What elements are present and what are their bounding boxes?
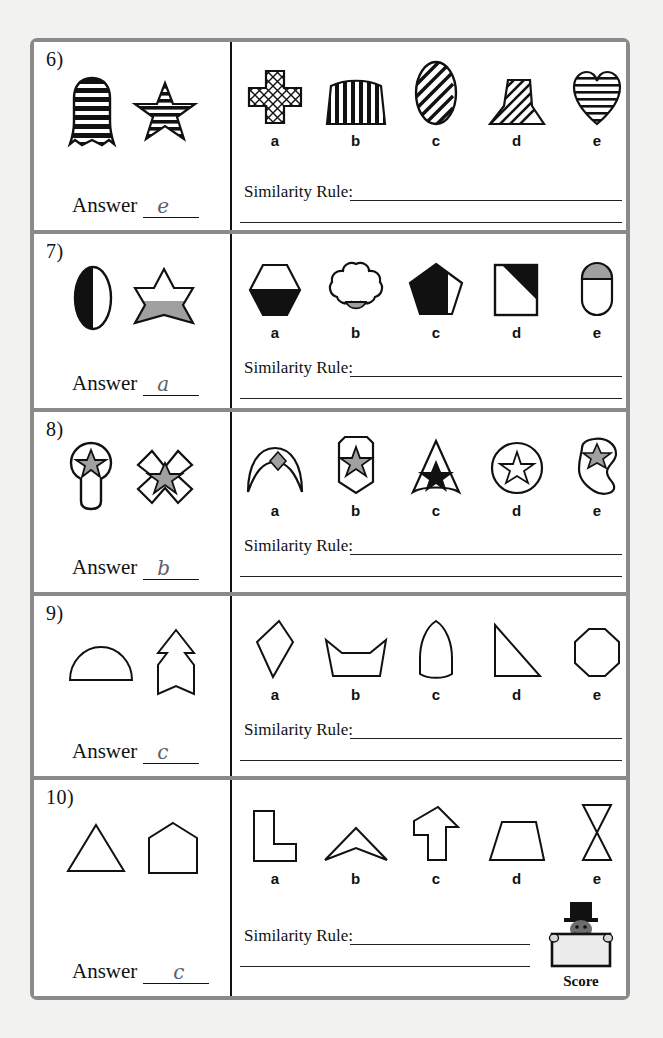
answer-label: Answer: [72, 193, 137, 218]
option-8-e[interactable]: e: [562, 430, 632, 519]
option-8-d[interactable]: d: [482, 430, 552, 519]
answer-blank[interactable]: a: [143, 373, 199, 396]
question-6-options-cell: a: [232, 42, 626, 230]
answer-handwriting-7: a: [157, 374, 169, 394]
option-6-e[interactable]: e: [562, 60, 632, 149]
option-shape-crescent-arch-with-gray-diamond: [245, 430, 305, 496]
similarity-rule-line-1[interactable]: [350, 376, 622, 377]
option-7-b[interactable]: b: [321, 252, 391, 341]
similarity-rule-label-9: Similarity Rule:: [244, 720, 353, 740]
option-shape-square-upper-right-black-triangle: [492, 252, 542, 318]
option-9-b[interactable]: b: [321, 614, 391, 703]
similarity-rule-label-6: Similarity Rule:: [244, 182, 353, 202]
question-7-stimuli: [34, 254, 232, 342]
stimulus-horizontally-striped-dome-pillar-shape: [69, 76, 115, 148]
similarity-rule-line-2[interactable]: [240, 760, 622, 761]
option-10-e[interactable]: e: [562, 798, 632, 887]
question-7-options-cell: a b: [232, 234, 626, 408]
answer-handwriting-8: b: [157, 558, 170, 578]
question-row-8: 8) Answer b: [34, 412, 626, 596]
question-8-stimuli: [34, 432, 232, 520]
option-letter: b: [351, 324, 360, 341]
option-shape-l-shape-outline: [250, 798, 300, 864]
option-letter: e: [593, 502, 601, 519]
similarity-rule-label-7: Similarity Rule:: [244, 358, 353, 378]
option-letter: a: [271, 132, 279, 149]
option-letter: e: [593, 324, 601, 341]
question-8-answer: Answer b: [72, 555, 199, 580]
option-shape-circle-with-white-star: [489, 430, 545, 496]
option-9-d[interactable]: d: [482, 614, 552, 703]
question-7-options: a b: [240, 252, 632, 341]
similarity-rule-line-2[interactable]: [240, 398, 622, 399]
option-letter: c: [432, 132, 440, 149]
similarity-rule-line-1[interactable]: [350, 554, 622, 555]
option-letter: d: [512, 870, 521, 887]
option-shape-heart-with-horizontal-stripes: [572, 60, 622, 126]
answer-label: Answer: [72, 739, 137, 764]
option-6-b[interactable]: b: [321, 60, 391, 149]
option-6-a[interactable]: a: [240, 60, 310, 149]
similarity-rule-line-1[interactable]: [350, 738, 622, 739]
option-10-d[interactable]: d: [482, 798, 552, 887]
question-10-stimulus-cell: 10) Answer c: [34, 780, 232, 996]
similarity-rule-line-2[interactable]: [240, 576, 622, 577]
option-7-d[interactable]: d: [482, 252, 552, 341]
option-9-a[interactable]: a: [240, 614, 310, 703]
similarity-rule-line-2[interactable]: [240, 222, 622, 223]
option-6-c[interactable]: c: [401, 60, 471, 149]
option-shape-open-bowl-trapezoid-outline: [322, 614, 390, 680]
option-10-b[interactable]: b: [321, 798, 391, 887]
answer-blank[interactable]: b: [143, 557, 199, 580]
option-shape-ellipse-with-diagonal-stripes: [413, 60, 459, 126]
option-letter: a: [271, 686, 279, 703]
option-shape-cloud-shape-bottom-gray: [328, 252, 384, 318]
similarity-rule-line-1[interactable]: [350, 200, 622, 201]
option-shape-pentagon-mostly-black: [408, 252, 464, 318]
option-shape-chevron-arrowhead-outline: [321, 798, 391, 864]
question-6-options: a: [240, 60, 632, 149]
answer-handwriting-9: c: [157, 742, 168, 762]
option-8-b[interactable]: b: [321, 430, 391, 519]
similarity-rule-label-8: Similarity Rule:: [244, 536, 353, 556]
option-shape-right-triangle-outline: [491, 614, 543, 680]
question-row-9: 9) Answer c: [34, 596, 626, 780]
option-letter: c: [432, 502, 440, 519]
option-10-c[interactable]: c: [401, 798, 471, 887]
question-row-6: 6): [34, 42, 626, 234]
option-shape-cross-with-crosshatch-fill: [246, 60, 304, 126]
question-6-stimulus-cell: 6): [34, 42, 232, 230]
answer-label: Answer: [72, 959, 137, 984]
option-6-d[interactable]: d: [482, 60, 552, 149]
option-7-e[interactable]: e: [562, 252, 632, 341]
question-8-options-cell: a b: [232, 412, 626, 592]
option-8-c[interactable]: c: [401, 430, 471, 519]
option-7-a[interactable]: a: [240, 252, 310, 341]
answer-blank[interactable]: e: [143, 195, 199, 218]
option-letter: a: [271, 502, 279, 519]
option-shape-blob-shape-with-gray-star: [574, 430, 620, 496]
option-10-a[interactable]: a: [240, 798, 310, 887]
question-row-10: 10) Answer c: [34, 780, 626, 996]
similarity-rule-line-1[interactable]: [350, 944, 530, 945]
question-7-stimulus-cell: 7) Answer: [34, 234, 232, 408]
option-7-c[interactable]: c: [401, 252, 471, 341]
stimulus-ellipse-half-black-left: [71, 265, 115, 331]
option-letter: a: [271, 324, 279, 341]
question-10-stimuli: [34, 804, 232, 892]
option-9-e[interactable]: e: [562, 614, 632, 703]
answer-blank[interactable]: c: [143, 741, 199, 764]
option-shape-kite-diamond-outline: [253, 614, 297, 680]
option-9-c[interactable]: c: [401, 614, 471, 703]
question-9-stimulus-cell: 9) Answer c: [34, 596, 232, 776]
option-letter: d: [512, 502, 521, 519]
option-shape-triangle-with-black-star: [409, 430, 463, 496]
option-8-a[interactable]: a: [240, 430, 310, 519]
man-with-top-hat-holding-sign-icon: [542, 900, 620, 972]
option-letter: b: [351, 686, 360, 703]
stimulus-house-pentagon-outline: [145, 820, 201, 876]
answer-blank[interactable]: c: [143, 961, 209, 984]
stimulus-x-cross-shape-with-gray-star: [132, 445, 198, 507]
option-shape-bullet-dome-outline: [416, 614, 456, 680]
similarity-rule-line-2[interactable]: [240, 966, 530, 967]
